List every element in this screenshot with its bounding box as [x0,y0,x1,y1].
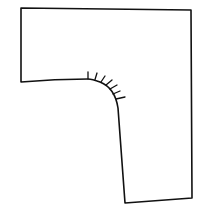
hatch-tick [101,76,105,82]
hatch-tick [116,97,125,99]
hatch-tick [106,80,112,85]
l-shape-diagram [0,0,200,211]
l-shape-outline [21,8,192,203]
hatch-tick [113,91,120,94]
hatch-tick [95,73,97,80]
hatch-tick [110,85,117,89]
